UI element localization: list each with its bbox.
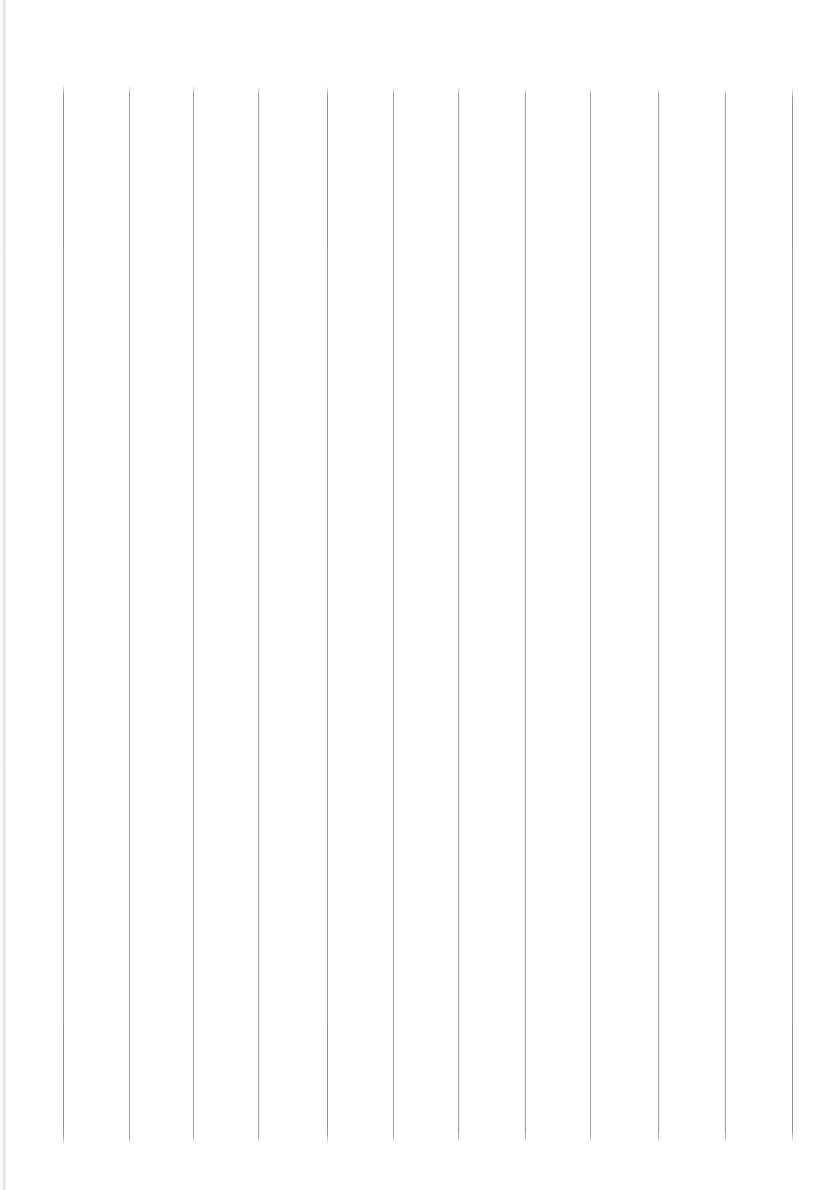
ruling-line [327,86,328,1144]
ruling-line [258,86,259,1144]
ruling-line [792,88,793,1142]
ruling-lines-group [0,0,837,1190]
ruling-line [658,87,659,1142]
ruling-line [458,86,459,1143]
ruling-line [525,87,526,1143]
scanned-page [0,0,837,1190]
ruling-line [590,87,591,1143]
ruling-line [129,85,130,1145]
ruling-line [193,85,194,1144]
ruling-line [393,86,394,1143]
ruling-line [63,85,64,1145]
ruling-line [725,88,726,1142]
